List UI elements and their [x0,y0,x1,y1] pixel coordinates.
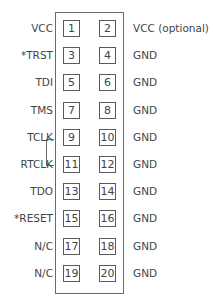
left-signal-label: *TRST [21,48,53,62]
right-signal-label: GND [133,130,157,144]
pin-box-odd: 11 [63,156,80,173]
pin-box-odd: 5 [63,74,80,91]
left-signal-label: TCLK [27,130,53,144]
pin-box-odd: 17 [63,238,80,255]
left-signal-label: TDI [35,75,53,89]
right-signal-label: GND [133,75,157,89]
pin-box-odd: 9 [63,129,80,146]
right-signal-label: GND [133,266,157,280]
right-signal-label: GND [133,48,157,62]
pin-box-even: 10 [99,129,116,146]
pin-box-even: 6 [99,74,116,91]
pin-box-odd: 1 [63,20,80,37]
pin-box-even: 14 [99,183,116,200]
pin-box-even: 20 [99,265,116,282]
pin-box-even: 12 [99,156,116,173]
left-signal-label: TMS [31,103,53,117]
right-signal-label: GND [133,239,157,253]
left-signal-label: RTCLK [21,157,53,171]
pin-box-even: 18 [99,238,116,255]
right-signal-label: GND [133,157,157,171]
right-signal-label: GND [133,211,157,225]
right-signal-label: GND [133,103,157,117]
left-signal-label: VCC [31,21,53,35]
left-signal-label: *RESET [14,211,53,225]
pin-box-even: 16 [99,210,116,227]
pin-box-odd: 3 [63,47,80,64]
right-signal-label: VCC (optional) [133,21,209,35]
pin-box-odd: 15 [63,210,80,227]
pin-box-odd: 13 [63,183,80,200]
pin-box-even: 8 [99,102,116,119]
left-signal-label: N/C [34,239,53,253]
left-signal-label: N/C [34,266,53,280]
pin-box-even: 4 [99,47,116,64]
left-signal-label: TDO [30,184,53,198]
pin-box-odd: 19 [63,265,80,282]
right-signal-label: GND [133,184,157,198]
pin-box-odd: 7 [63,102,80,119]
pin-box-even: 2 [99,20,116,37]
